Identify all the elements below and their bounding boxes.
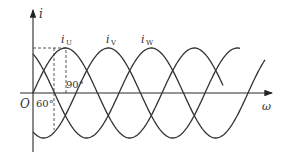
angle-label-60: 60° bbox=[36, 98, 54, 109]
svg-text:V: V bbox=[110, 39, 117, 47]
svg-text:i: i bbox=[106, 33, 110, 46]
origin-label: O bbox=[20, 97, 30, 111]
series-label-iV: i V bbox=[106, 33, 117, 47]
svg-text:U: U bbox=[66, 39, 72, 47]
angle-label-90: 90° bbox=[66, 79, 84, 90]
x-axis-label: ω bbox=[262, 100, 271, 113]
y-axis-label: i bbox=[39, 7, 43, 21]
svg-text:i: i bbox=[141, 33, 145, 46]
three-phase-waveform-diagram: i ω O 60° 90° i U i V i W bbox=[0, 0, 302, 159]
series-label-iW: i W bbox=[141, 33, 154, 47]
peak-guide-90deg bbox=[33, 48, 66, 93]
svg-text:i: i bbox=[61, 33, 65, 46]
series-label-iU: i U bbox=[61, 33, 72, 47]
svg-text:W: W bbox=[146, 39, 154, 47]
